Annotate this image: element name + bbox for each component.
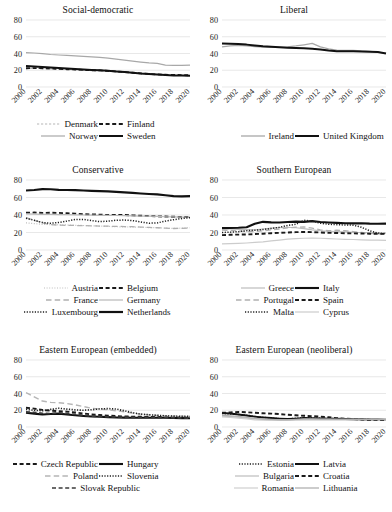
legend-label: France xyxy=(74,294,99,306)
legend-label: Cyprus xyxy=(323,306,349,318)
legend-line-swatch xyxy=(294,484,320,492)
svg-text:2004: 2004 xyxy=(239,87,257,105)
legend-item[interactable]: Norway xyxy=(14,130,98,142)
legend-row: EstoniaLatvia xyxy=(196,458,392,470)
panel-title: Eastern European (neoliberal) xyxy=(196,340,392,356)
legend-item[interactable]: Luxembourg xyxy=(14,306,98,318)
legend-item[interactable]: Poland xyxy=(14,470,98,482)
plot-area: 0204060802000200220042006200820102012201… xyxy=(0,16,196,121)
legend-row: Slovak Republic xyxy=(0,482,196,494)
legend-line-swatch xyxy=(294,296,320,304)
legend-row: MaltaCyprus xyxy=(196,306,392,318)
svg-text:2002: 2002 xyxy=(26,427,44,445)
legend-label: Portugal xyxy=(264,294,295,306)
legend-item[interactable]: Czech Republic xyxy=(14,458,98,470)
svg-text:40: 40 xyxy=(14,211,22,220)
legend-row: PolandSlovenia xyxy=(0,470,196,482)
svg-text:40: 40 xyxy=(210,50,218,59)
svg-text:2014: 2014 xyxy=(321,427,339,445)
panel-eastern-european-embedded: Eastern European (embedded) 020406080200… xyxy=(0,340,196,512)
legend-item[interactable]: Latvia xyxy=(294,458,378,470)
svg-text:2006: 2006 xyxy=(255,250,273,268)
series-line xyxy=(26,189,190,196)
legend-label: Ireland xyxy=(269,130,294,142)
legend-line-swatch xyxy=(233,484,259,492)
legend-line-swatch xyxy=(294,284,320,292)
svg-text:2006: 2006 xyxy=(255,427,273,445)
svg-text:2004: 2004 xyxy=(239,427,257,445)
legend-item[interactable]: Spain xyxy=(294,294,378,306)
svg-text:2008: 2008 xyxy=(75,87,93,105)
legend-item[interactable]: Ireland xyxy=(210,130,294,142)
legend-line-swatch xyxy=(44,472,70,480)
svg-text:2012: 2012 xyxy=(108,427,126,445)
legend-item[interactable]: Netherlands xyxy=(98,306,182,318)
legend-label: Latvia xyxy=(323,458,346,470)
legend-item[interactable]: Bulgaria xyxy=(210,470,294,482)
legend-item[interactable]: Italy xyxy=(294,282,378,294)
legend-item[interactable]: Hungary xyxy=(98,458,182,470)
svg-text:2020: 2020 xyxy=(174,87,192,105)
svg-text:80: 80 xyxy=(14,356,22,365)
legend-line-swatch xyxy=(294,472,320,480)
legend-item[interactable]: Lithuania xyxy=(294,482,378,494)
legend-label: Hungary xyxy=(127,458,159,470)
legend-label: Malta xyxy=(273,306,294,318)
svg-text:2004: 2004 xyxy=(43,427,61,445)
legend-line-swatch xyxy=(98,296,124,304)
chart-legend: AustriaBelgiumFranceGermanyLuxembourgNet… xyxy=(0,282,196,318)
svg-text:2000: 2000 xyxy=(206,87,224,105)
legend-item[interactable]: Slovak Republic xyxy=(56,482,140,494)
panel-title: Southern European xyxy=(196,160,392,176)
legend-line-swatch xyxy=(98,308,124,316)
legend-row: IrelandUnited Kingdom xyxy=(196,130,392,142)
legend-label: Finland xyxy=(127,118,155,130)
legend-item[interactable]: Portugal xyxy=(210,294,294,306)
legend-line-swatch xyxy=(240,284,266,292)
legend-line-swatch xyxy=(98,460,124,468)
legend-label: Slovak Republic xyxy=(80,482,140,494)
legend-item[interactable]: Romania xyxy=(210,482,294,494)
legend-item[interactable]: United Kingdom xyxy=(294,130,378,142)
legend-item[interactable]: Austria xyxy=(14,282,98,294)
legend-label: Netherlands xyxy=(127,306,170,318)
legend-item[interactable]: Malta xyxy=(210,306,294,318)
legend-line-swatch xyxy=(294,460,320,468)
legend-label: Lithuania xyxy=(323,482,358,494)
svg-text:80: 80 xyxy=(14,176,22,185)
svg-text:60: 60 xyxy=(210,194,218,203)
line-chart-svg: 0204060802000200220042006200820102012201… xyxy=(196,16,392,121)
legend-item[interactable]: Croatia xyxy=(294,470,378,482)
legend-item[interactable]: France xyxy=(14,294,98,306)
svg-text:60: 60 xyxy=(210,33,218,42)
svg-text:80: 80 xyxy=(210,176,218,185)
legend-item[interactable]: Belgium xyxy=(98,282,182,294)
legend-item[interactable]: Finland xyxy=(98,118,182,130)
legend-row: GreeceItaly xyxy=(196,282,392,294)
svg-text:20: 20 xyxy=(210,66,218,75)
legend-line-swatch xyxy=(240,132,266,140)
legend-item[interactable]: Denmark xyxy=(14,118,98,130)
legend-item[interactable]: Estonia xyxy=(210,458,294,470)
svg-text:40: 40 xyxy=(14,50,22,59)
legend-item[interactable]: Sweden xyxy=(98,130,182,142)
small-multiples-figure: Social-democratic 0204060802000200220042… xyxy=(0,0,392,512)
legend-item[interactable]: Cyprus xyxy=(294,306,378,318)
legend-label: Poland xyxy=(73,470,98,482)
chart-legend: EstoniaLatviaBulgariaCroatiaRomaniaLithu… xyxy=(196,458,392,494)
svg-text:2016: 2016 xyxy=(337,427,355,445)
legend-item[interactable]: Germany xyxy=(98,294,182,306)
legend-label: Croatia xyxy=(323,470,350,482)
legend-line-swatch xyxy=(294,308,320,316)
svg-text:2012: 2012 xyxy=(304,87,322,105)
svg-text:2018: 2018 xyxy=(353,250,371,268)
svg-text:2020: 2020 xyxy=(370,250,388,268)
plot-area: 0204060802000200220042006200820102012201… xyxy=(196,356,392,461)
panel-title: Eastern European (embedded) xyxy=(0,340,196,356)
line-chart-svg: 0204060802000200220042006200820102012201… xyxy=(0,176,196,284)
plot-area: 0204060802000200220042006200820102012201… xyxy=(0,356,196,461)
legend-item[interactable]: Slovenia xyxy=(98,470,182,482)
svg-text:2018: 2018 xyxy=(157,427,175,445)
legend-label: Spain xyxy=(323,294,344,306)
legend-item[interactable]: Greece xyxy=(210,282,294,294)
